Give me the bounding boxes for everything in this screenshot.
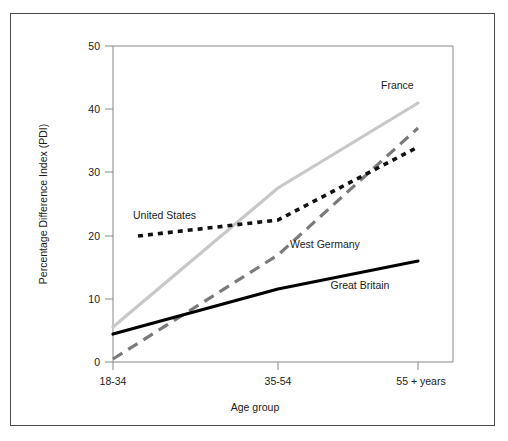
- y-axis-title: Percentage Difference Index (PDI): [37, 124, 49, 284]
- x-tick-labels: 18-34 35-54 55 + years: [100, 375, 446, 387]
- y-tick-label-40: 40: [88, 103, 100, 115]
- y-tick-label-50: 50: [88, 40, 100, 52]
- y-tick-labels: 0 10 20 30 40 50: [88, 40, 100, 368]
- x-ticks: [113, 362, 418, 370]
- series-label-united-states: United States: [133, 209, 196, 221]
- x-tick-label-1: 18-34: [100, 375, 127, 387]
- y-tick-label-30: 30: [88, 166, 100, 178]
- y-tick-label-20: 20: [88, 230, 100, 242]
- series-label-west-germany: West Germany: [290, 238, 361, 250]
- x-tick-label-2: 35-54: [265, 375, 292, 387]
- figure-container: 0 10 20 30 40 50 18-34 35-54 55 + years …: [0, 0, 508, 441]
- line-chart: 0 10 20 30 40 50 18-34 35-54 55 + years …: [0, 0, 508, 441]
- series-label-great-britain: Great Britain: [331, 279, 390, 291]
- x-tick-label-3: 55 + years: [396, 375, 445, 387]
- x-axis-title: Age group: [231, 401, 280, 413]
- y-tick-label-10: 10: [88, 293, 100, 305]
- series-label-france: France: [381, 79, 414, 91]
- axis-group: [113, 46, 453, 362]
- y-tick-label-0: 0: [94, 356, 100, 368]
- y-ticks: [105, 46, 113, 362]
- series-line-great-britain: [113, 261, 418, 334]
- series-line-united-states: [138, 147, 418, 236]
- series-line-west-germany: [113, 128, 418, 359]
